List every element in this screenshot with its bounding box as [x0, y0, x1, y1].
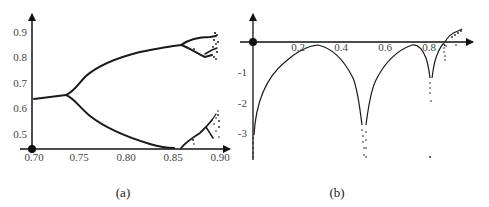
a-xtick-label: 0.85: [163, 151, 183, 163]
caption-a: (a): [116, 185, 130, 200]
panel-a: 0.9 0.8 0.7 0.6 0.5 0.70 0.75 0.80 0.85 …: [13, 14, 230, 200]
b-xtick-label: 0.2: [291, 41, 305, 53]
a-ytick-label: 0.6: [13, 102, 27, 114]
a-ytick-label: 0.8: [13, 51, 27, 63]
a-xtick-label: 0.70: [24, 151, 44, 163]
a-ytick-label: 0.9: [13, 26, 27, 38]
b-origin-dot: [249, 38, 257, 46]
panel-b: 0.2 0.4 0.6 0.8 -1 -2 -3 (b): [238, 14, 473, 200]
a-xtick-label: 0.80: [116, 151, 136, 163]
b-xtick-label: 0.8: [422, 41, 436, 53]
a-ytick-label: 0.5: [13, 128, 27, 140]
b-ytick-label: -2: [238, 97, 247, 109]
caption-b: (b): [329, 185, 344, 200]
a-ytick-label: 0.7: [13, 77, 27, 89]
b-ytick-label: -3: [238, 127, 248, 139]
b-xtick-label: 0.4: [334, 41, 348, 53]
b-ytick-label: -1: [238, 66, 247, 78]
a-bifurcation-curves: [34, 36, 217, 148]
a-xtick-label: 0.75: [69, 151, 89, 163]
a-xtick-label: 0.90: [210, 151, 230, 163]
figure: 0.9 0.8 0.7 0.6 0.5 0.70 0.75 0.80 0.85 …: [0, 0, 489, 207]
b-xtick-label: 0.6: [378, 41, 392, 53]
